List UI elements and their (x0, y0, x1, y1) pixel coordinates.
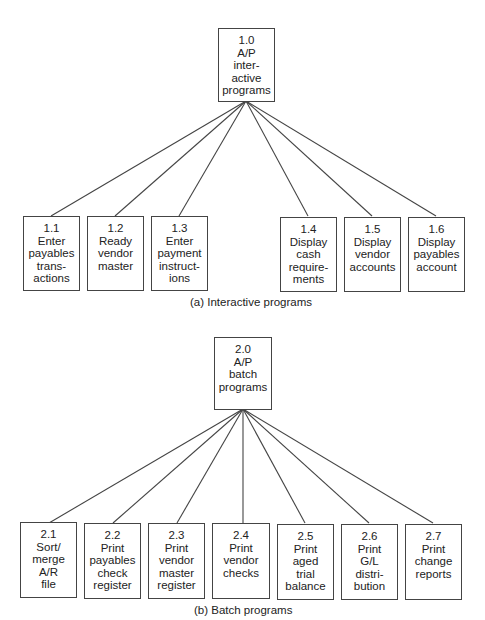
node-label-line: active (231, 72, 261, 85)
node-label-line: vendor (223, 554, 258, 567)
node-label-line: Print (165, 542, 189, 555)
node-label-line: trans- (37, 260, 66, 273)
node-label-line: checks (223, 567, 259, 580)
node-label-line: 1.2 (108, 222, 124, 235)
node-label-line: Enter (166, 235, 194, 248)
node-label-line: Display (418, 236, 456, 249)
node-label-line: 2.3 (169, 529, 185, 542)
node-label-line: master (159, 567, 194, 580)
caption-interactive-programs: (a) Interactive programs (190, 296, 312, 308)
node-label-line: 2.0 (235, 343, 251, 356)
node-label-line: 2.6 (362, 530, 378, 543)
node-label-line: trial (296, 568, 315, 581)
node-label-line: 1.3 (172, 222, 188, 235)
node-label-line: Print (294, 543, 318, 556)
node-label-line: aged (293, 555, 319, 568)
node-label-line: A/P (234, 356, 253, 369)
node-label-line: 2.1 (41, 528, 57, 541)
node-label-line: register (93, 579, 131, 592)
node-label-line: merge (32, 553, 65, 566)
node-label-line: vendor (355, 248, 390, 261)
node-label-line: accounts (349, 261, 395, 274)
node-label-line: Print (229, 542, 253, 555)
node-label-line: actions (33, 272, 69, 285)
node-label-line: require- (289, 261, 329, 274)
node-label-line: payment (157, 247, 201, 260)
node-label-line: Sort/ (36, 541, 60, 554)
node-1-6-display-payables-account: 1.6 Display payables account (408, 217, 465, 292)
node-label-line: balance (285, 580, 325, 593)
node-label-line: Display (354, 236, 392, 249)
node-label-line: vendor (159, 554, 194, 567)
node-1-3-enter-payment-instructions: 1.3 Enter payment instruct- ions (151, 216, 208, 291)
node-label-line: inter- (233, 59, 259, 72)
node-label-line: instruct- (159, 260, 200, 273)
node-label-line: 1.1 (44, 222, 60, 235)
node-label-line: 1.4 (301, 223, 317, 236)
node-label-line: 1.6 (429, 223, 445, 236)
node-label-line: Print (101, 542, 125, 555)
node-label-line: payables (89, 554, 135, 567)
node-2-6-print-gl-distribution: 2.6 Print G/L distri- bution (341, 524, 398, 600)
node-1-0-ap-interactive-programs: 1.0 A/P inter- active programs (218, 28, 275, 102)
node-label-line: 2.4 (233, 529, 249, 542)
node-label-line: ions (169, 272, 190, 285)
node-1-1-enter-payables-transactions: 1.1 Enter payables trans- actions (23, 216, 80, 291)
node-label-line: Enter (38, 235, 66, 248)
node-label-line: Display (290, 236, 328, 249)
node-label-line: file (41, 578, 56, 591)
node-label-line: ments (293, 273, 324, 286)
node-label-line: G/L (360, 555, 379, 568)
node-2-1-sort-merge-ar-file: 2.1 Sort/ merge A/R file (20, 522, 77, 598)
node-label-line: master (98, 260, 133, 273)
node-label-line: Print (358, 543, 382, 556)
node-label-line: 1.0 (239, 34, 255, 47)
node-label-line: batch (229, 368, 257, 381)
node-label-line: 1.5 (365, 223, 381, 236)
node-label-line: programs (222, 84, 271, 97)
node-label-line: vendor (98, 247, 133, 260)
node-label-line: programs (219, 381, 268, 394)
node-2-3-print-vendor-master-register: 2.3 Print vendor master register (148, 523, 205, 599)
node-1-2-ready-vendor-master: 1.2 Ready vendor master (87, 216, 144, 291)
node-label-line: cash (296, 248, 320, 261)
node-label-line: A/P (237, 47, 256, 60)
node-label-line: payables (413, 248, 459, 261)
node-label-line: A/R (39, 566, 58, 579)
node-label-line: 2.5 (298, 530, 314, 543)
node-label-line: 2.2 (105, 529, 121, 542)
node-label-line: bution (354, 580, 385, 593)
node-2-7-print-change-reports: 2.7 Print change reports (405, 524, 462, 600)
node-label-line: register (157, 579, 195, 592)
node-2-0-ap-batch-programs: 2.0 A/P batch programs (214, 337, 272, 410)
caption-batch-programs: (b) Batch programs (194, 604, 292, 616)
node-1-4-display-cash-requirements: 1.4 Display cash require- ments (280, 217, 337, 292)
node-label-line: 2.7 (426, 530, 442, 543)
node-label-line: Print (422, 543, 446, 556)
node-label-line: payables (28, 247, 74, 260)
node-label-line: Ready (99, 235, 132, 248)
node-label-line: account (416, 261, 456, 274)
node-2-2-print-payables-check-register: 2.2 Print payables check register (84, 523, 141, 599)
node-label-line: change (415, 555, 453, 568)
node-label-line: reports (416, 568, 452, 581)
node-1-5-display-vendor-accounts: 1.5 Display vendor accounts (344, 217, 401, 292)
node-label-line: distri- (355, 568, 383, 581)
node-2-5-print-aged-trial-balance: 2.5 Print aged trial balance (277, 524, 334, 600)
node-label-line: check (97, 567, 127, 580)
node-2-4-print-vendor-checks: 2.4 Print vendor checks (212, 523, 270, 599)
